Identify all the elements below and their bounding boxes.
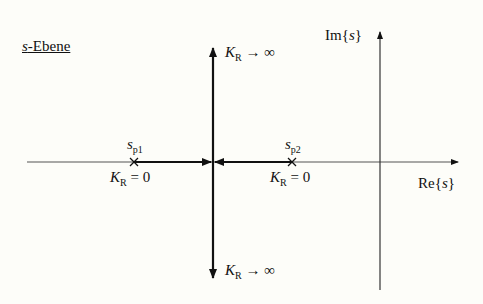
im-suffix: } <box>355 27 362 43</box>
re-prefix: Re{ <box>418 175 442 191</box>
re-suffix: } <box>448 175 455 191</box>
pole-label-p2: sp2 <box>285 137 301 155</box>
im-prefix: Im{ <box>325 27 349 43</box>
gain-value: → ∞ <box>245 44 274 60</box>
pole-subscript: p2 <box>291 144 301 155</box>
gain-value: = 0 <box>130 169 150 185</box>
pole-gain-label-p2: KR = 0 <box>270 170 310 188</box>
gain-subscript: R <box>235 270 242 281</box>
gain-value: → ∞ <box>245 262 274 278</box>
gain-symbol: K <box>225 262 235 278</box>
gain-subscript: R <box>235 52 242 63</box>
pole-subscript: p1 <box>133 144 143 155</box>
gain-subscript: R <box>120 177 127 188</box>
gain-symbol: K <box>110 169 120 185</box>
gain-symbol: K <box>270 169 280 185</box>
gain-symbol: K <box>225 44 235 60</box>
gain-infinity-label-down: KR → ∞ <box>225 263 275 281</box>
real-axis-label: Re{s} <box>418 176 455 191</box>
pole-gain-label-p1: KR = 0 <box>110 170 150 188</box>
gain-value: = 0 <box>290 169 310 185</box>
plane-title: s-Ebene <box>22 39 70 54</box>
pole-label-p1: sp1 <box>127 137 143 155</box>
title-text: -Ebene <box>28 38 70 54</box>
imaginary-axis-label: Im{s} <box>325 28 362 43</box>
gain-subscript: R <box>280 177 287 188</box>
gain-infinity-label-up: KR → ∞ <box>225 45 275 63</box>
